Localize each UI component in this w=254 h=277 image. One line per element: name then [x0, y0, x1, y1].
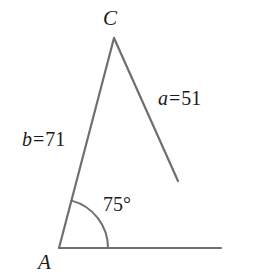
- side-a-equals: =: [168, 87, 181, 109]
- side-b-variable: b: [22, 128, 32, 150]
- angle-label-A: 75°: [103, 194, 131, 214]
- vertex-label-C: C: [103, 8, 117, 29]
- side-label-b: b=71: [22, 129, 65, 149]
- side-label-a: a=51: [158, 88, 201, 108]
- side-b-line: [59, 38, 114, 248]
- side-b-equals: =: [32, 128, 45, 150]
- side-a-variable: a: [158, 87, 168, 109]
- vertex-label-A: A: [38, 252, 51, 273]
- side-a-line: [114, 38, 178, 181]
- side-a-value: 51: [181, 87, 201, 109]
- triangle-diagram: C A a=51 b=71 75°: [0, 0, 254, 277]
- side-b-value: 71: [45, 128, 65, 150]
